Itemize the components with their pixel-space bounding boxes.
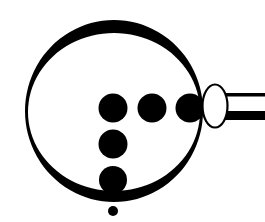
dot	[99, 130, 128, 159]
dot	[99, 166, 127, 194]
small-dot	[108, 206, 118, 216]
handle	[224, 93, 265, 120]
dot	[138, 94, 167, 123]
magnifying-glass-icon	[0, 0, 265, 222]
ferrule	[203, 85, 228, 128]
dot	[176, 94, 205, 123]
dot	[99, 94, 128, 123]
